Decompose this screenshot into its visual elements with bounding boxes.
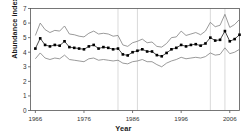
- data-point-marker: [165, 52, 168, 55]
- data-point-marker: [228, 40, 231, 43]
- data-point-marker: [73, 47, 76, 50]
- data-point-marker: [224, 30, 227, 33]
- y-tick-label: 1: [23, 92, 27, 99]
- data-point-marker: [83, 48, 86, 51]
- data-point-marker: [112, 48, 115, 51]
- y-tick-label: 4: [23, 49, 27, 56]
- data-point-marker: [204, 42, 207, 45]
- data-point-marker: [180, 44, 183, 47]
- data-point-marker: [54, 44, 57, 47]
- data-point-marker: [68, 46, 71, 49]
- data-point-marker: [141, 48, 144, 51]
- data-point-marker: [44, 44, 47, 47]
- data-point-marker: [58, 44, 61, 47]
- y-tick-label: 0: [23, 107, 27, 114]
- data-point-marker: [117, 47, 120, 50]
- x-tick-label: 1996: [174, 115, 188, 122]
- y-axis-ticks: 01234567: [23, 5, 31, 114]
- y-tick-label: 3: [23, 63, 27, 70]
- data-point-marker: [175, 47, 178, 50]
- y-tick-label: 2: [23, 78, 27, 85]
- x-axis-label: Year: [0, 124, 247, 133]
- data-point-marker: [78, 47, 81, 50]
- data-point-marker: [233, 38, 236, 41]
- x-tick-label: 1976: [77, 115, 91, 122]
- x-tick-label: 2006: [223, 115, 237, 122]
- data-point-marker: [97, 47, 100, 50]
- data-point-marker: [136, 49, 139, 52]
- data-point-marker: [34, 47, 37, 50]
- data-point-marker: [170, 48, 173, 51]
- axis-frame: [31, 9, 240, 111]
- x-tick-label: 1966: [28, 115, 42, 122]
- x-tick-label: 1986: [126, 115, 140, 122]
- data-point-marker: [219, 39, 222, 42]
- data-point-marker: [156, 54, 159, 57]
- data-point-marker: [63, 40, 66, 43]
- chart-figure: Abundance index 01234567 196619761986199…: [0, 0, 247, 137]
- abundance-index-line-chart: 01234567 19661976198619962006: [0, 0, 247, 137]
- data-point-marker: [194, 43, 197, 46]
- data-point-marker: [39, 37, 42, 40]
- data-point-marker: [238, 33, 241, 36]
- data-point-marker: [214, 39, 217, 42]
- data-point-marker: [88, 45, 91, 48]
- x-axis-ticks: 19661976198619962006: [28, 111, 237, 122]
- data-point-marker: [49, 45, 52, 48]
- data-point-marker: [160, 55, 163, 58]
- data-point-marker: [146, 50, 149, 53]
- data-point-marker: [209, 36, 212, 39]
- data-point-marker: [122, 53, 125, 56]
- data-point-marker: [107, 47, 110, 50]
- y-tick-label: 5: [23, 34, 27, 41]
- data-point-marker: [92, 44, 95, 47]
- y-tick-label: 7: [23, 5, 27, 12]
- data-point-marker: [151, 50, 154, 53]
- data-point-marker: [102, 46, 105, 49]
- data-point-marker: [190, 44, 193, 47]
- vertical-gridlines: [118, 9, 225, 111]
- data-point-marker: [126, 54, 129, 57]
- y-tick-label: 6: [23, 19, 27, 26]
- data-point-marker: [199, 44, 202, 47]
- data-point-marker: [185, 45, 188, 48]
- data-point-marker: [131, 51, 134, 54]
